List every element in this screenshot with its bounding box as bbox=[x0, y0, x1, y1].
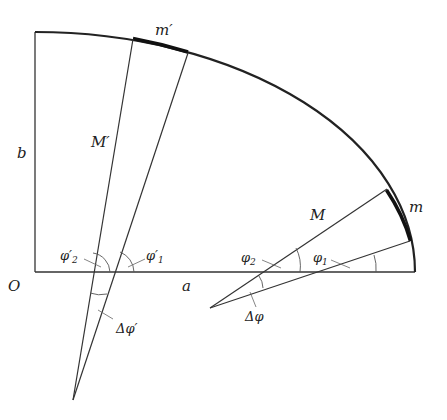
angle-arc-phi1 bbox=[374, 255, 376, 272]
angle-arc-delta-phi bbox=[259, 276, 263, 288]
leader-phi2-prime bbox=[84, 259, 101, 267]
label-phi2: φ2 bbox=[241, 251, 256, 267]
label-phi2-prime: φ′2 bbox=[60, 249, 78, 265]
label-delta-phi: Δφ bbox=[245, 310, 264, 323]
label-m-prime: m′ bbox=[155, 23, 173, 38]
label-a: a bbox=[182, 279, 191, 294]
label-delta-phi-prime: Δφ′ bbox=[116, 322, 137, 335]
angle-arc-delta-phi-prime bbox=[90, 293, 107, 295]
label-b: b bbox=[17, 146, 27, 161]
label-phi1: φ1 bbox=[313, 251, 328, 267]
ellipse-arc bbox=[35, 32, 415, 272]
arc-segment-m bbox=[387, 190, 411, 241]
line-m-prime-1 bbox=[73, 39, 133, 400]
label-phi1-prime: φ′1 bbox=[146, 249, 164, 265]
line-m-2 bbox=[210, 241, 410, 308]
diagram-canvas: m′ M′ b O a M m φ′2 φ′1 φ2 φ1 Δφ′ Δφ bbox=[0, 0, 447, 420]
line-m-prime-2 bbox=[73, 53, 188, 400]
angle-arc-phi2 bbox=[296, 248, 300, 272]
leader-delta-phi bbox=[250, 292, 256, 307]
label-M-prime: M′ bbox=[91, 135, 110, 150]
label-m: m bbox=[409, 200, 423, 215]
angle-arc-phi1-prime bbox=[120, 252, 134, 272]
label-O: O bbox=[8, 279, 20, 294]
line-m-1 bbox=[210, 189, 387, 308]
label-M: M bbox=[310, 208, 325, 223]
arc-segment-m-prime bbox=[133, 39, 188, 52]
ellipse-diagram bbox=[0, 0, 447, 420]
